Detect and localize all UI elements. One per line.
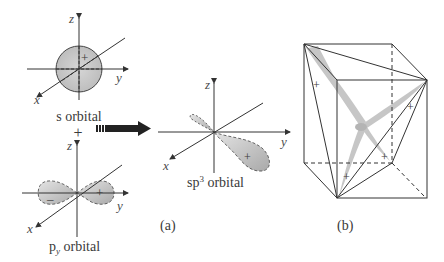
sign-plus: +	[244, 150, 251, 164]
z-label: z	[204, 77, 210, 92]
sign-plus-top-left: +	[313, 78, 320, 92]
sp3-small-lobe	[190, 114, 214, 132]
sign-plus-back: +	[381, 150, 388, 164]
sp3-lobes	[305, 46, 424, 196]
panel-b-label: (b)	[337, 218, 354, 234]
x-label: x	[162, 158, 169, 173]
sign-plus: +	[81, 50, 88, 65]
combine-arrow-icon	[96, 121, 151, 136]
s-orbital: z y x + s orbital	[27, 11, 128, 124]
sp3-orbital: z y x + sp3 orbital	[158, 77, 290, 190]
sign-plus-bottom: +	[343, 170, 350, 184]
sign-plus-right: +	[407, 100, 414, 114]
sp3-orbital-caption: sp3 orbital	[187, 174, 244, 190]
z-label: z	[68, 11, 74, 26]
sign-minus: –	[46, 191, 54, 206]
z-label: z	[66, 138, 72, 153]
sp3-large-lobe	[214, 132, 270, 171]
sign-plus: +	[96, 185, 103, 200]
panel-a-label: (a)	[160, 218, 176, 234]
y-label: y	[115, 198, 123, 213]
lobe-bottom	[339, 126, 366, 196]
py-orbital-caption: py orbital	[49, 239, 100, 256]
x-label: x	[33, 92, 40, 107]
y-label: y	[279, 134, 287, 149]
plus-operator: +	[73, 124, 82, 141]
s-orbital-caption: s orbital	[56, 109, 102, 124]
tetrahedral-cube: + + + +	[304, 44, 427, 198]
y-label: y	[114, 70, 122, 85]
x-label: x	[26, 221, 33, 236]
py-orbital: z y x – + py orbital	[22, 138, 128, 256]
hybridization-diagram: z y x + s orbital + z y x – + py orbital…	[0, 0, 444, 262]
